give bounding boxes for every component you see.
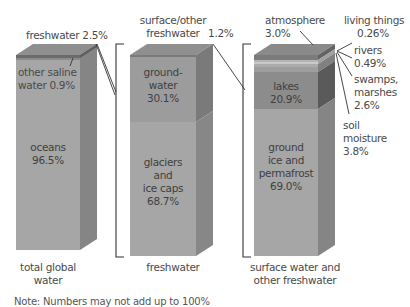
- label-surface-other-1: surface/other: [128, 14, 218, 27]
- label-surface-other-pct: 1.2%: [208, 27, 233, 40]
- label-moisture: moisture: [343, 132, 387, 145]
- label-glaciers-2: and: [130, 169, 196, 182]
- label-glaciers-3: ice caps: [130, 182, 196, 195]
- label-groundwater-2: water: [130, 79, 196, 92]
- caption-surface-water-2: other freshwater: [245, 274, 345, 287]
- caption-surface-water-1: surface water and: [245, 261, 345, 274]
- label-marshes: marshes: [354, 86, 397, 99]
- caption-total-global-water-2: water: [0, 274, 96, 287]
- label-living-things-pct: 0.26%: [357, 27, 389, 40]
- label-permafrost: permafrost: [250, 167, 322, 180]
- caption-freshwater: freshwater: [125, 261, 221, 274]
- label-swamps-pct: 2.6%: [354, 99, 379, 112]
- label-lakes-pct: 20.9%: [254, 93, 318, 106]
- label-lakes: lakes: [254, 80, 318, 93]
- label-ground-ice-2: ice and: [250, 154, 322, 167]
- label-oceans-pct: 96.5%: [16, 154, 80, 167]
- label-other-saline-line1: other saline: [18, 66, 77, 79]
- caption-total-global-water-1: total global: [0, 261, 96, 274]
- label-ground-ice-pct: 69.0%: [250, 180, 322, 193]
- label-glaciers-pct: 68.7%: [130, 195, 196, 208]
- label-soil: soil: [343, 119, 360, 132]
- label-rivers-pct: 0.49%: [354, 57, 386, 70]
- label-groundwater-pct: 30.1%: [130, 92, 196, 105]
- label-atmosphere-pct: 3.0%: [265, 27, 290, 40]
- label-surface-other-2: freshwater: [128, 27, 218, 40]
- footnote: Note: Numbers may not add up to 100%: [14, 296, 210, 307]
- label-glaciers-1: glaciers: [130, 156, 196, 169]
- label-ground-ice-1: ground: [250, 141, 322, 154]
- label-rivers: rivers: [354, 44, 382, 57]
- label-other-saline-line2: water 0.9%: [18, 79, 75, 92]
- label-oceans: oceans: [16, 141, 80, 154]
- label-atmosphere: atmosphere: [265, 14, 325, 27]
- label-soil-pct: 3.8%: [343, 145, 368, 158]
- label-swamps: swamps,: [354, 73, 398, 86]
- label-living-things: living things: [344, 14, 404, 27]
- label-freshwater-share: freshwater 2.5%: [26, 29, 108, 42]
- label-groundwater-1: ground-: [130, 66, 196, 79]
